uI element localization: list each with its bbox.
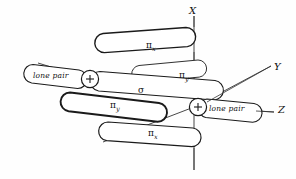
orbital-lobe-lone-pair-right	[198, 99, 262, 122]
orbital-diagram-figure: X Y Z πx πy σ πy πx lone pair lone pair	[0, 0, 296, 179]
orbital-lobe-lone-pair-left	[24, 65, 87, 89]
orbital-lobe-pi-x-upper	[95, 27, 196, 52]
diagram-canvas	[0, 0, 296, 179]
orbital-lobe-pi-x-lower	[99, 122, 201, 147]
orbital-lobe-pi-y-lower	[61, 92, 167, 121]
